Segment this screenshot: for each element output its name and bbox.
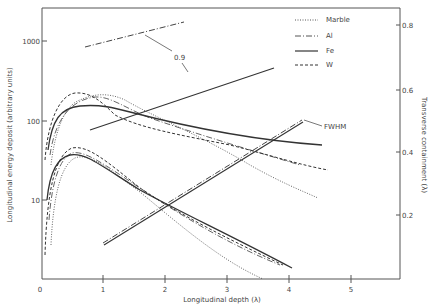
x-tick-1: 1	[101, 286, 105, 294]
containment-0.9-al	[85, 22, 184, 47]
x-axis-label: Longitudinal depth (λ)	[183, 296, 261, 304]
x-tick-0: 0	[38, 286, 42, 294]
x-tick-3: 3	[225, 286, 229, 294]
annotations: 0.9 FWHM	[145, 35, 346, 131]
x-tick-4: 4	[287, 286, 292, 294]
lower-curves	[45, 148, 292, 279]
annotation-0.9: 0.9	[174, 54, 185, 62]
series-fe-lower	[47, 155, 292, 268]
y2-tick-labels: 0.2 0.4 0.6 0.8	[402, 22, 414, 220]
series-w-lower	[45, 148, 283, 265]
legend-al: Al	[326, 32, 333, 40]
legend-fe: Fe	[326, 47, 334, 55]
legend-marble: Marble	[326, 16, 350, 24]
axes	[42, 8, 400, 279]
y2-axis-label: Transverse containment (λ)	[420, 96, 428, 193]
chart-svg: 0 1 2 3 4 5 Longitudinal depth (λ) 10 10…	[0, 0, 431, 304]
y2-tick-0.2: 0.2	[402, 212, 413, 220]
y2-tick-0.6: 0.6	[402, 87, 414, 95]
annotation-fwhm: FWHM	[324, 123, 346, 131]
x-tick-2: 2	[163, 286, 167, 294]
series-marble-lower	[51, 157, 263, 279]
legend: Marble Al Fe W	[295, 16, 350, 69]
y-tick-100: 100	[27, 118, 40, 126]
series-marble-upper	[51, 95, 318, 198]
x-tick-5: 5	[349, 286, 353, 294]
y2-tick-0.4: 0.4	[402, 149, 414, 157]
y-tick-1000: 1000	[22, 38, 40, 46]
y2-tick-0.8: 0.8	[402, 22, 413, 30]
y-axis-label: Longitudinal energy deposit (arbitrary u…	[6, 67, 14, 223]
x-tick-labels: 0 1 2 3 4 5	[38, 286, 353, 294]
upper-curves	[45, 93, 328, 198]
y-tick-10: 10	[31, 197, 40, 205]
containment-0.9-fe	[90, 68, 274, 130]
legend-w: W	[326, 61, 333, 69]
chart-container: 0 1 2 3 4 5 Longitudinal depth (λ) 10 10…	[0, 0, 431, 304]
y2-axis-ticks	[396, 25, 400, 215]
series-fe-upper	[48, 105, 322, 150]
containment-lines	[85, 22, 303, 245]
y-axis-ticks	[42, 41, 47, 200]
series-al-lower	[49, 153, 280, 265]
y-tick-labels: 10 100 1000	[22, 38, 40, 205]
series-al-upper	[50, 97, 300, 165]
